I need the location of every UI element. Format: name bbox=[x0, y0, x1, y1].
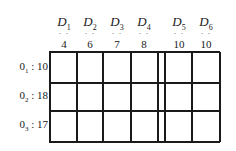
grid-hline-bottom bbox=[49, 141, 220, 143]
dots-1: · · bbox=[51, 28, 77, 38]
origin-label-3: 03 : 17 bbox=[2, 118, 48, 133]
grid-vline-4b bbox=[164, 52, 166, 142]
grid-vline-right bbox=[219, 52, 221, 142]
grid-hline-top bbox=[49, 51, 220, 53]
dots-6: · · bbox=[193, 28, 219, 38]
origin-sep: : bbox=[28, 60, 37, 72]
demand-3: 7 bbox=[104, 38, 130, 50]
grid-hline-2 bbox=[49, 110, 220, 112]
dest-label: D bbox=[110, 14, 119, 29]
grid-vline-5 bbox=[191, 52, 193, 142]
dots-3: · · bbox=[104, 28, 130, 38]
origin-label-2: 02 : 18 bbox=[2, 89, 48, 104]
grid-vline-2 bbox=[102, 52, 104, 142]
demand-1: 4 bbox=[51, 38, 77, 50]
grid-vline-3 bbox=[130, 52, 132, 142]
dots-4: · · bbox=[131, 28, 157, 38]
origin-label-1: 01 : 10 bbox=[2, 60, 48, 75]
origin-supply: 18 bbox=[37, 89, 48, 101]
dots-5: · · bbox=[166, 28, 192, 38]
grid-vline-4a bbox=[157, 52, 159, 142]
demand-6: 10 bbox=[193, 38, 219, 50]
grid-vline-1 bbox=[76, 52, 78, 142]
demand-2: 6 bbox=[77, 38, 103, 50]
dest-label: D bbox=[199, 14, 208, 29]
dest-label: D bbox=[57, 14, 66, 29]
dest-label: D bbox=[137, 14, 146, 29]
origin-sep: : bbox=[28, 118, 37, 130]
dest-label: D bbox=[172, 14, 181, 29]
origin-sep: : bbox=[28, 89, 37, 101]
grid-hline-1 bbox=[49, 82, 220, 84]
dest-label: D bbox=[83, 14, 92, 29]
grid-vline-left bbox=[49, 52, 51, 142]
origin-supply: 10 bbox=[37, 60, 48, 72]
dots-2: · · bbox=[77, 28, 103, 38]
demand-5: 10 bbox=[166, 38, 192, 50]
demand-4: 8 bbox=[131, 38, 157, 50]
origin-supply: 17 bbox=[37, 118, 48, 130]
